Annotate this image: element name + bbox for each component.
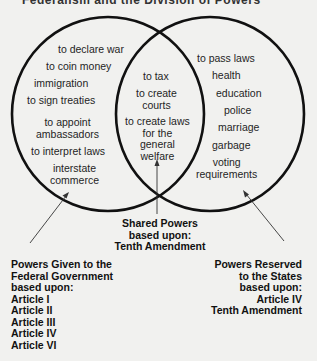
states-circle [116, 17, 304, 211]
federal-power-item: to declare war [58, 43, 124, 55]
state-power-item: health [212, 69, 241, 81]
federal-powers-caption: Powers Given to theFederal Governmentbas… [11, 259, 113, 351]
federal-arrow [30, 192, 69, 243]
federal-power-item: to sign treaties [27, 94, 95, 106]
state-power-item: marriage [218, 121, 259, 133]
federal-power-item-appoint: to appointambassadors [36, 116, 99, 140]
states-arrow [243, 190, 284, 241]
state-power-item: police [224, 104, 251, 116]
shared-power-item-courts: to createcourts [136, 87, 177, 111]
state-power-item: garbage [212, 139, 251, 151]
state-power-item: to pass laws [197, 52, 255, 64]
federal-power-item: to coin money [46, 60, 111, 72]
federal-power-item-commerce: interstatecommerce [50, 162, 99, 186]
state-power-item: education [216, 87, 262, 99]
state-powers-caption: Powers Reservedto the Statesbased upon:A… [200, 259, 302, 317]
shared-powers-caption: Shared Powersbased upon:Tenth Amendment [105, 218, 215, 253]
shared-power-item-welfare: to create lawsfor thegeneralwelfare [125, 116, 190, 162]
state-power-item-voting: votingrequirements [196, 157, 257, 180]
shared-power-item: to tax [143, 70, 169, 82]
shared-arrow [155, 159, 160, 214]
venn-diagram: Federalism and the Division of Powers to… [0, 0, 317, 361]
federal-power-item: to interpret laws [31, 145, 105, 157]
federal-power-item: immigration [34, 77, 88, 89]
